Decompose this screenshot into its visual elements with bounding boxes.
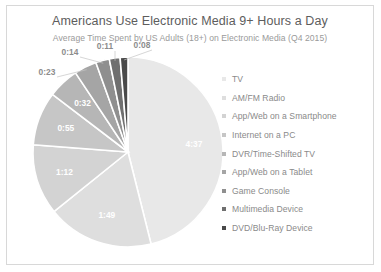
legend-swatch-icon	[222, 152, 226, 156]
legend-swatch-icon	[222, 96, 226, 100]
leader-line	[80, 57, 103, 63]
pie-slice-value-label: 0:11	[97, 41, 113, 51]
legend-item-label: Game Console	[232, 186, 290, 196]
legend-item[interactable]: App/Web on a Smartphone	[222, 107, 372, 126]
pie-slice-value-label: 0:08	[134, 40, 151, 50]
legend-item[interactable]: DVD/Blu-Ray Device	[222, 219, 372, 238]
pie-slice-value-label: 0:55	[57, 123, 74, 133]
legend-item[interactable]: App/Web on a Tablet	[222, 163, 372, 182]
legend-item-label: Multimedia Device	[232, 204, 303, 214]
legend-item-label: Internet on a PC	[232, 130, 295, 140]
legend-item-label: DVD/Blu-Ray Device	[232, 223, 313, 233]
pie-slice-value-label: 0:32	[74, 98, 91, 108]
pie-slice-value-label: 0:23	[39, 67, 56, 77]
chart-legend: TVAM/FM RadioApp/Web on a SmartphoneInte…	[222, 70, 372, 237]
legend-swatch-icon	[222, 133, 226, 137]
legend-item-label: App/Web on a Smartphone	[232, 111, 337, 121]
legend-item-label: DVR/Time-Shifted TV	[232, 149, 315, 159]
legend-swatch-icon	[222, 114, 226, 118]
legend-item-label: App/Web on a Tablet	[232, 167, 312, 177]
pie-slice-value-label: 1:12	[56, 167, 73, 177]
legend-item[interactable]: Game Console	[222, 182, 372, 201]
legend-item-label: AM/FM Radio	[232, 93, 285, 103]
legend-swatch-icon	[222, 77, 226, 81]
pie-slice-value-label: 0:14	[62, 47, 79, 57]
legend-item[interactable]: Multimedia Device	[222, 200, 372, 219]
legend-swatch-icon	[222, 207, 226, 211]
legend-item-label: TV	[232, 74, 243, 84]
legend-item[interactable]: AM/FM Radio	[222, 89, 372, 108]
legend-swatch-icon	[222, 226, 226, 230]
legend-swatch-icon	[222, 189, 226, 193]
pie-slice-value-label: 1:49	[98, 210, 115, 220]
legend-item[interactable]: TV	[222, 70, 372, 89]
legend-swatch-icon	[222, 170, 226, 174]
pie-slice-value-label: 4:37	[186, 139, 203, 149]
legend-item[interactable]: Internet on a PC	[222, 126, 372, 145]
legend-item[interactable]: DVR/Time-Shifted TV	[222, 144, 372, 163]
